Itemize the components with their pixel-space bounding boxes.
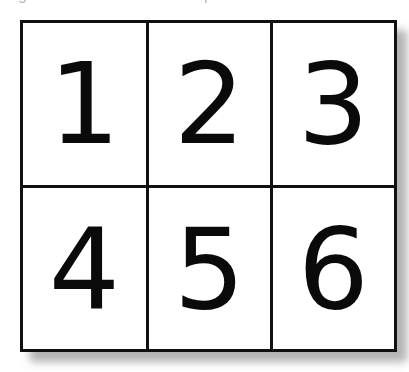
cell-number: 5: [174, 213, 245, 325]
cropped-header-text-fragment: p: [204, 0, 213, 4]
grid-divider-horizontal: [23, 185, 394, 188]
cell-number: 4: [49, 213, 120, 325]
cell-number: 1: [49, 48, 120, 160]
cropped-header-text-fragment: g: [18, 0, 27, 4]
numbered-grid: 1 2 3 4 5 6: [20, 20, 397, 352]
grid-cell-1: 1: [23, 23, 146, 185]
cell-number: 2: [174, 48, 245, 160]
grid-cell-5: 5: [149, 188, 270, 349]
grid-cell-6: 6: [273, 188, 394, 349]
grid-cell-4: 4: [23, 188, 146, 349]
grid-cell-2: 2: [149, 23, 270, 185]
cell-number: 6: [298, 213, 369, 325]
cell-number: 3: [298, 48, 369, 160]
grid-cell-3: 3: [273, 23, 394, 185]
